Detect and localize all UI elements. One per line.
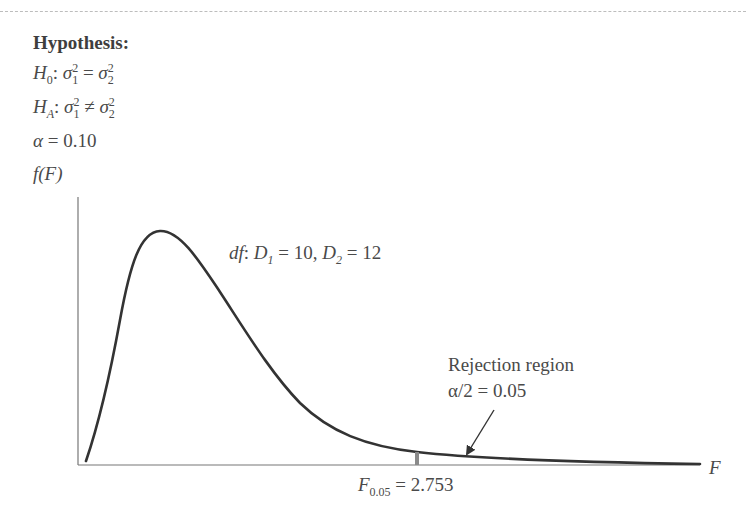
rejection-region-arrow — [467, 410, 494, 454]
rejection-region-label: Rejection region — [448, 355, 574, 374]
critical-value-label: F0.05 = 2.753 — [358, 475, 454, 494]
degrees-of-freedom-label: df: D1 = 10, D2 = 12 — [229, 243, 381, 262]
density-curve — [86, 231, 700, 464]
alpha-half-label: α/2 = 0.05 — [448, 381, 526, 400]
x-axis-label: F — [709, 458, 721, 477]
